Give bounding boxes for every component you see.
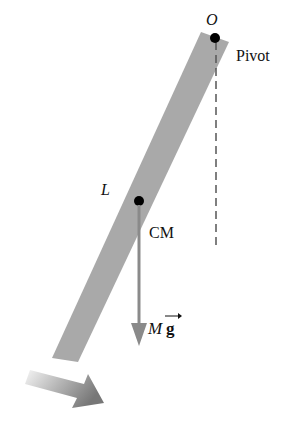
label-pivot: Pivot bbox=[236, 47, 270, 64]
label-pivot-point: O bbox=[206, 11, 218, 28]
svg-text:M: M bbox=[147, 319, 163, 338]
rotation-direction-arrow bbox=[25, 370, 104, 408]
svg-text:g: g bbox=[166, 319, 175, 338]
center-of-mass-dot bbox=[134, 196, 144, 206]
pivot-dot bbox=[210, 33, 220, 43]
label-length: L bbox=[100, 181, 110, 198]
label-center-of-mass: CM bbox=[149, 224, 174, 241]
pendulum-diagram: O Pivot L CM M g bbox=[0, 0, 293, 421]
label-weight: M g bbox=[147, 313, 182, 338]
